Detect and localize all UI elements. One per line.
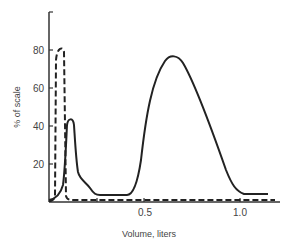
- x-axis-label: Volume, liters: [122, 229, 177, 239]
- y-tick-label: 80: [33, 45, 45, 56]
- solid-series-line: [49, 56, 268, 200]
- dashed-series-line: [49, 48, 275, 201]
- x-tick-label: 0.5: [138, 207, 152, 218]
- chart: 20 40 60 80 0.5 1.0 Volume, liters % of …: [0, 0, 298, 241]
- x-tick-label: 1.0: [233, 207, 247, 218]
- y-tick-label: 40: [33, 121, 45, 132]
- y-tick-label: 60: [33, 83, 45, 94]
- y-tick-label: 20: [33, 159, 45, 170]
- y-axis-label: % of scale: [12, 86, 22, 128]
